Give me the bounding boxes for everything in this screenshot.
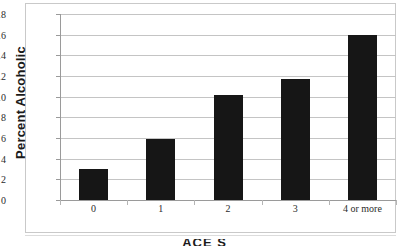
y-axis-tick-label: 14 bbox=[0, 55, 6, 56]
y-axis-tick-label: 8 bbox=[0, 117, 6, 118]
y-axis-tick-label: 0 bbox=[0, 200, 6, 201]
x-axis-tick-label: 0 bbox=[60, 203, 127, 214]
x-axis-title-clipped: ACE S bbox=[0, 239, 409, 246]
bar bbox=[146, 139, 175, 200]
y-axis-tick-label: 16 bbox=[0, 35, 6, 36]
x-axis-tick-label: 1 bbox=[127, 203, 194, 214]
plot-bottom-divider bbox=[25, 235, 396, 236]
y-axis-tick-label: 6 bbox=[0, 138, 6, 139]
x-axis-tick-label: 2 bbox=[194, 203, 261, 214]
bar-cell bbox=[127, 14, 194, 200]
y-axis-tick-label: 10 bbox=[0, 97, 6, 98]
x-axis-tick-labels: 01234 or more bbox=[60, 203, 396, 214]
y-axis-title: Percent Alcoholic bbox=[13, 13, 28, 193]
chart-screenshot: Percent Alcoholic 181614121086420 01234 … bbox=[0, 0, 409, 246]
x-axis-line bbox=[60, 200, 396, 201]
y-axis-tick-label: 18 bbox=[0, 14, 6, 15]
bar-cell bbox=[329, 14, 396, 200]
bar bbox=[348, 35, 377, 200]
bar bbox=[214, 95, 243, 200]
y-axis-tick-label: 2 bbox=[0, 179, 6, 180]
bar-cell bbox=[262, 14, 329, 200]
y-axis-tick-label: 12 bbox=[0, 76, 6, 77]
y-axis-tick-label: 4 bbox=[0, 159, 6, 160]
bar bbox=[281, 79, 310, 200]
x-axis-tick-mark bbox=[396, 200, 397, 205]
bar-series bbox=[60, 14, 396, 200]
bar-cell bbox=[60, 14, 127, 200]
bar-cell bbox=[194, 14, 261, 200]
x-axis-tick-label: 3 bbox=[262, 203, 329, 214]
bar bbox=[79, 169, 108, 200]
x-axis-tick-label: 4 or more bbox=[329, 203, 396, 214]
x-axis-title: ACE S bbox=[0, 239, 409, 246]
